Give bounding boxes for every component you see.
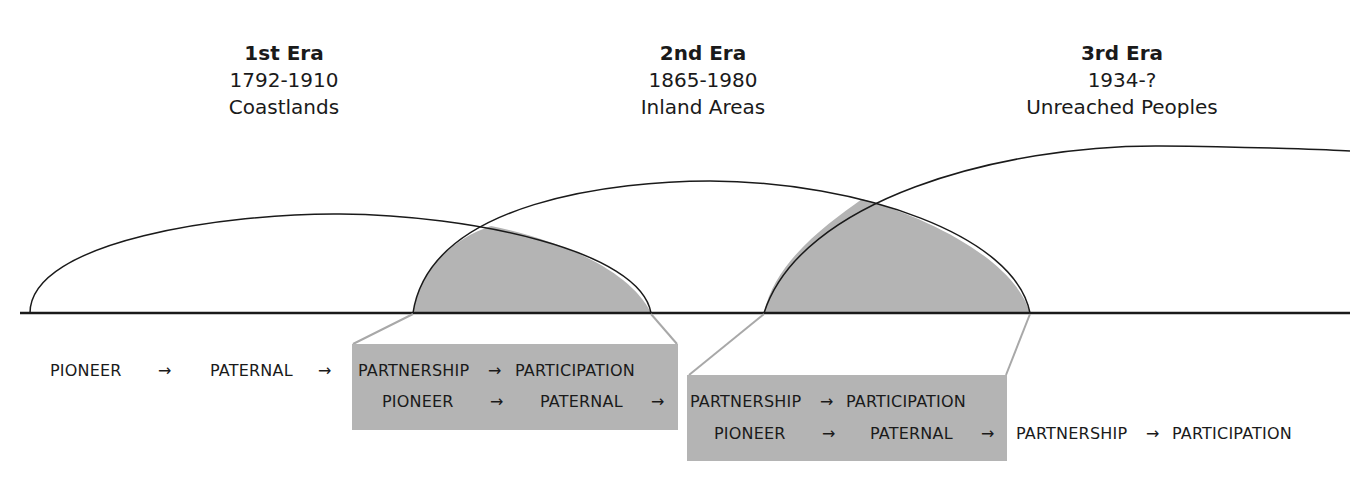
era-dates: 1792-1910 [134, 67, 434, 94]
era-title: 3rd Era [972, 40, 1272, 67]
era-dates: 1934-? [972, 67, 1272, 94]
stage-paternal: PATERNAL [540, 392, 623, 411]
connector-line [353, 314, 413, 344]
stage-participation: PARTICIPATION [515, 361, 635, 380]
arrow-right-icon: → [318, 361, 331, 380]
era-title: 1st Era [134, 40, 434, 67]
transition-box-1-2 [352, 344, 678, 430]
arrow-right-icon: → [490, 392, 503, 411]
stage-paternal: PATERNAL [210, 361, 293, 380]
stage-paternal: PATERNAL [870, 424, 953, 443]
arrow-right-icon: → [158, 361, 171, 380]
arrow-right-icon: → [651, 392, 664, 411]
stage-pioneer: PIONEER [382, 392, 454, 411]
overlap-region-1-2 [413, 226, 651, 313]
stage-pioneer: PIONEER [714, 424, 786, 443]
era-heading-2: 2nd Era 1865-1980 Inland Areas [553, 40, 853, 121]
stage-participation: PARTICIPATION [846, 392, 966, 411]
connector-line [651, 314, 677, 344]
stage-partnership: PARTNERSHIP [1016, 424, 1127, 443]
arrow-right-icon: → [820, 392, 833, 411]
connector-line [689, 314, 764, 375]
era-region: Inland Areas [553, 94, 853, 121]
era-heading-3: 3rd Era 1934-? Unreached Peoples [972, 40, 1272, 121]
arrow-right-icon: → [1146, 424, 1159, 443]
connector-line [1006, 314, 1030, 375]
stage-partnership: PARTNERSHIP [690, 392, 801, 411]
era-region: Coastlands [134, 94, 434, 121]
era-heading-1: 1st Era 1792-1910 Coastlands [134, 40, 434, 121]
stage-participation: PARTICIPATION [1172, 424, 1292, 443]
era-title: 2nd Era [553, 40, 853, 67]
transition-box-2-3 [687, 375, 1007, 461]
era-dates: 1865-1980 [553, 67, 853, 94]
stage-pioneer: PIONEER [50, 361, 122, 380]
arrow-right-icon: → [981, 424, 994, 443]
arrow-right-icon: → [488, 361, 501, 380]
era-region: Unreached Peoples [972, 94, 1272, 121]
arrow-right-icon: → [822, 424, 835, 443]
stage-partnership: PARTNERSHIP [358, 361, 469, 380]
